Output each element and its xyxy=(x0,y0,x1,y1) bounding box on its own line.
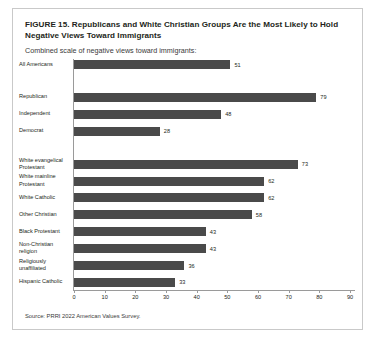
x-tick-mark xyxy=(350,290,351,293)
x-tick-label: 20 xyxy=(132,294,138,300)
bar-chart-plot-area: All Americans51Republican79Independent48… xyxy=(13,57,362,309)
bar-track: 62 xyxy=(74,177,350,186)
bar-row: All Americans51 xyxy=(13,60,362,69)
bar-track: 43 xyxy=(74,227,350,236)
x-tick-mark xyxy=(289,290,290,293)
bar-row: White evangelicalProtestant73 xyxy=(13,160,362,169)
bar-value-label: 48 xyxy=(225,111,231,117)
bar-value-label: 33 xyxy=(179,279,185,285)
bar xyxy=(74,127,160,136)
bar xyxy=(74,93,316,102)
x-tick-mark xyxy=(74,290,75,293)
x-tick-label: 10 xyxy=(102,294,108,300)
bar-row: Democrat28 xyxy=(13,127,362,136)
bar-row: Religiouslyunaffiliated36 xyxy=(13,261,362,270)
bar-row: White Catholic62 xyxy=(13,193,362,202)
bar-track: 28 xyxy=(74,127,350,136)
bar-value-label: 58 xyxy=(256,212,262,218)
bar-track: 79 xyxy=(74,93,350,102)
x-tick-label: 40 xyxy=(194,294,200,300)
x-tick-mark xyxy=(166,290,167,293)
x-tick-label: 50 xyxy=(224,294,230,300)
bar-value-label: 28 xyxy=(164,128,170,134)
x-axis-line xyxy=(73,290,355,291)
x-tick-label: 30 xyxy=(163,294,169,300)
bar-category-label: Non-Christianreligion xyxy=(19,241,71,256)
bar-category-label: Other Christian xyxy=(19,211,71,218)
figure-title: FIGURE 15. Republicans and White Christi… xyxy=(25,19,347,42)
x-tick-mark xyxy=(197,290,198,293)
bar-track: 36 xyxy=(74,261,350,270)
x-tick-label: 90 xyxy=(347,294,353,300)
bar-row: Independent48 xyxy=(13,110,362,119)
bar xyxy=(74,244,206,253)
x-tick-mark xyxy=(105,290,106,293)
bar-row: Republican79 xyxy=(13,93,362,102)
bar-row: White mainlineProtestant62 xyxy=(13,177,362,186)
bar-row: Hispanic Catholic33 xyxy=(13,278,362,287)
bar-row: Non-Christianreligion43 xyxy=(13,244,362,253)
bar-value-label: 36 xyxy=(188,263,194,269)
bar-value-label: 43 xyxy=(210,246,216,252)
bar-category-label: Hispanic Catholic xyxy=(19,278,71,285)
x-tick-label: 60 xyxy=(255,294,261,300)
bar-category-label: All Americans xyxy=(19,61,71,68)
bar xyxy=(74,177,264,186)
bar xyxy=(74,278,175,287)
bar-track: 51 xyxy=(74,60,350,69)
bar-category-label: White mainlineProtestant xyxy=(19,173,71,188)
bar-track: 73 xyxy=(74,160,350,169)
figure-card: FIGURE 15. Republicans and White Christi… xyxy=(12,8,363,330)
bar xyxy=(74,227,206,236)
x-tick-label: 80 xyxy=(316,294,322,300)
bar xyxy=(74,193,264,202)
x-tick-label: 70 xyxy=(286,294,292,300)
bar-value-label: 62 xyxy=(268,195,274,201)
bar-value-label: 79 xyxy=(320,94,326,100)
bar-value-label: 73 xyxy=(302,161,308,167)
bar-track: 58 xyxy=(74,210,350,219)
x-tick-label: 0 xyxy=(72,294,75,300)
x-tick-mark xyxy=(319,290,320,293)
bar-category-label: Republican xyxy=(19,93,71,100)
bar-row: Other Christian58 xyxy=(13,210,362,219)
bar-category-label: Independent xyxy=(19,110,71,117)
bar xyxy=(74,261,184,270)
bar-category-label: Black Protestant xyxy=(19,228,71,235)
x-tick-mark xyxy=(227,290,228,293)
bar-track: 43 xyxy=(74,244,350,253)
bar-track: 33 xyxy=(74,278,350,287)
bar-value-label: 62 xyxy=(268,178,274,184)
bar-value-label: 51 xyxy=(234,62,240,68)
figure-content: FIGURE 15. Republicans and White Christi… xyxy=(13,9,362,329)
x-tick-mark xyxy=(135,290,136,293)
figure-subtitle: Combined scale of negative views toward … xyxy=(25,46,352,55)
bar-category-label: Religiouslyunaffiliated xyxy=(19,258,71,273)
bar xyxy=(74,60,230,69)
bar-category-label: Democrat xyxy=(19,127,71,134)
bar-row: Black Protestant43 xyxy=(13,227,362,236)
bar-track: 48 xyxy=(74,110,350,119)
bar-category-label: White evangelicalProtestant xyxy=(19,157,71,172)
x-tick-mark xyxy=(258,290,259,293)
bar xyxy=(74,210,252,219)
bar-track: 62 xyxy=(74,193,350,202)
bar xyxy=(74,160,298,169)
source-note: Source: PRRI 2022 American Values Survey… xyxy=(25,313,140,319)
bar-value-label: 43 xyxy=(210,229,216,235)
bar xyxy=(74,110,221,119)
bar-category-label: White Catholic xyxy=(19,194,71,201)
